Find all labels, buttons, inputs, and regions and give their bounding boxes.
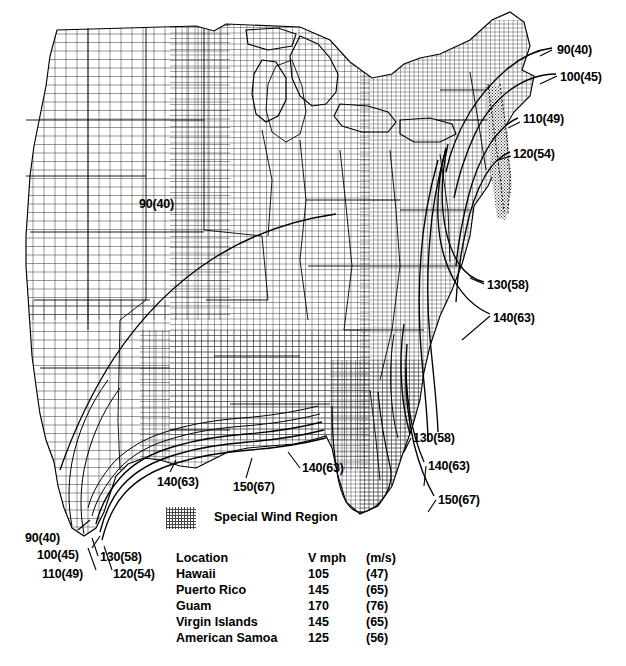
contour-label-tx-110: 110(49) [42, 568, 83, 581]
contour-label-tx-130: 130(58) [100, 551, 142, 564]
cell-location: Puerto Rico [176, 583, 308, 599]
contour-label-interior-90: 90(40) [139, 198, 174, 211]
cell-ms: (65) [366, 583, 416, 599]
table-row: Puerto Rico 145 (65) [176, 583, 416, 599]
header-location: Location [176, 551, 308, 567]
header-ms: (m/s) [366, 551, 416, 567]
contour-label-ne-90: 90(40) [557, 44, 592, 57]
cell-ms: (76) [366, 599, 416, 615]
cell-ms: (56) [366, 631, 416, 647]
table-header-row: Location V mph (m/s) [176, 551, 416, 567]
contour-label-ne-100: 100(45) [560, 71, 602, 84]
cell-location: American Samoa [176, 631, 308, 647]
special-wind-region-label: Special Wind Region [214, 510, 338, 524]
contour-label-gulf-140-west: 140(63) [157, 476, 199, 489]
contour-label-fl-130: 130(58) [413, 432, 455, 445]
cell-mph: 105 [308, 567, 366, 583]
cell-mph: 170 [308, 599, 366, 615]
contour-label-gulf-140-mid: 140(63) [302, 462, 344, 475]
territory-wind-speed-table: Location V mph (m/s) Hawaii 105 (47) Pue… [176, 551, 416, 648]
cell-mph: 145 [308, 615, 366, 631]
contour-label-gulf-150: 150(67) [233, 481, 275, 494]
cell-ms: (47) [366, 567, 416, 583]
contour-label-ne-120: 120(54) [513, 148, 555, 161]
contour-label-tx-100: 100(45) [37, 549, 79, 562]
cell-ms: (65) [366, 615, 416, 631]
table-row: Guam 170 (76) [176, 599, 416, 615]
contour-label-atl-140: 140(63) [493, 312, 535, 325]
contour-label-fl-140: 140(63) [428, 460, 470, 473]
contour-label-tx-90: 90(40) [25, 532, 60, 545]
contour-label-tx-120: 120(54) [113, 568, 155, 581]
header-mph: V mph [308, 551, 366, 567]
contour-label-ne-110: 110(49) [523, 113, 564, 126]
contour-label-atl-130: 130(58) [487, 279, 529, 292]
cell-location: Virgin Islands [176, 615, 308, 631]
cell-mph: 145 [308, 583, 366, 599]
cell-location: Hawaii [176, 567, 308, 583]
cell-location: Guam [176, 599, 308, 615]
table-row: Hawaii 105 (47) [176, 567, 416, 583]
special-wind-region-swatch [166, 507, 196, 529]
wind-speed-map-figure: 90(40) 90(40) 100(45) 110(49) 120(54) 13… [0, 0, 626, 666]
contour-label-fl-150: 150(67) [438, 494, 480, 507]
table-row: Virgin Islands 145 (65) [176, 615, 416, 631]
table-row: American Samoa 125 (56) [176, 631, 416, 647]
cell-mph: 125 [308, 631, 366, 647]
